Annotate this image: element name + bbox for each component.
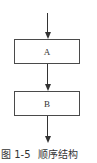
process-box-b-label: B <box>44 99 50 109</box>
a-to-b-arrow-head-icon <box>45 84 51 91</box>
figure-title: 顺序结构 <box>38 148 78 161</box>
exit-arrow-head-icon <box>45 136 51 143</box>
process-box-a: A <box>14 39 80 64</box>
a-to-b-arrow-line <box>47 64 48 86</box>
entry-arrow-head-icon <box>45 32 51 39</box>
figure-number: 图 1-5 <box>1 148 31 161</box>
figure-caption: 图 1-5顺序结构 <box>0 148 97 161</box>
sequential-structure-flowchart: A B 图 1-5顺序结构 <box>0 0 97 163</box>
exit-arrow-line <box>47 116 48 137</box>
entry-arrow-line <box>47 13 48 34</box>
process-box-a-label: A <box>44 47 51 57</box>
process-box-b: B <box>14 91 80 116</box>
